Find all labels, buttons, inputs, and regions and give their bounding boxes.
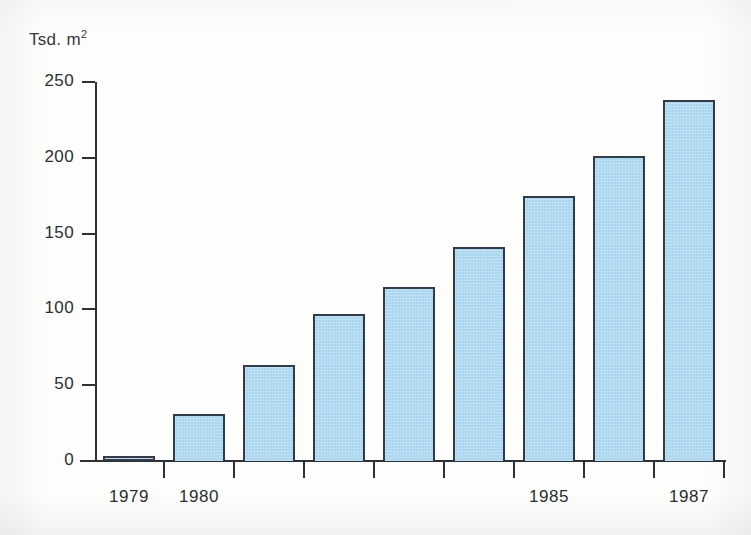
x-tick-1 (233, 462, 235, 478)
y-tick-label-200: 200 (12, 147, 74, 167)
y-axis-label-text: Tsd. m (29, 30, 81, 49)
bar-1983[interactable] (383, 287, 435, 461)
y-tick-label-150: 150 (12, 223, 74, 243)
bar-1979[interactable] (103, 456, 155, 461)
x-tick-label-1980: 1980 (164, 487, 234, 507)
y-axis-label: Tsd. m2 (29, 30, 87, 50)
bar-chart: Tsd. m2 250200150100500 1979198019851987 (0, 0, 751, 535)
y-tick-200 (82, 157, 95, 159)
bar-1981[interactable] (243, 365, 295, 461)
x-tick-label-1987: 1987 (654, 487, 724, 507)
y-tick-label-50: 50 (12, 374, 74, 394)
x-tick-2 (303, 462, 305, 478)
bar-1982[interactable] (313, 314, 365, 461)
bar-1980[interactable] (173, 414, 225, 461)
bar-1986[interactable] (593, 156, 645, 461)
y-tick-label-0: 0 (12, 450, 74, 470)
bar-1984[interactable] (453, 247, 505, 461)
x-tick-7 (653, 462, 655, 478)
x-tick-3 (373, 462, 375, 478)
y-tick-50 (82, 384, 95, 386)
chart-page: Tsd. m2 250200150100500 1979198019851987 (0, 0, 751, 535)
y-tick-label-250: 250 (12, 71, 74, 91)
y-tick-100 (82, 308, 95, 310)
x-tick-0 (163, 462, 165, 478)
y-axis-label-exponent: 2 (81, 28, 87, 40)
x-tick-6 (583, 462, 585, 478)
y-axis-line (95, 82, 97, 462)
bar-1987[interactable] (663, 100, 715, 461)
x-tick-label-1979: 1979 (94, 487, 164, 507)
x-tick-4 (443, 462, 445, 478)
x-tick-5 (513, 462, 515, 478)
y-tick-label-100: 100 (12, 298, 74, 318)
x-tick-8 (723, 462, 725, 478)
y-tick-150 (82, 233, 95, 235)
y-tick-0 (82, 460, 95, 462)
x-tick-label-1985: 1985 (514, 487, 584, 507)
bar-1985[interactable] (523, 196, 575, 461)
y-tick-250 (82, 81, 95, 83)
